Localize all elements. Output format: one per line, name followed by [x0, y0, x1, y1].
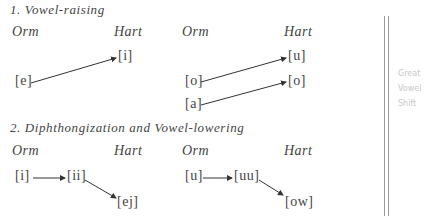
arrow-ii-to-ej — [85, 180, 116, 198]
note-line: Great — [398, 68, 421, 80]
arrow-e-to-i — [31, 58, 116, 83]
note-line: Shift — [398, 98, 421, 110]
sound-change-arrows — [0, 0, 435, 216]
margin-rule — [388, 16, 389, 216]
arrow-a-to-o — [201, 82, 286, 105]
arrow-uu-to-ow — [259, 180, 283, 195]
margin-rule — [384, 16, 385, 216]
handwritten-margin-note: Great Vowel Shift — [398, 68, 421, 110]
note-line: Vowel — [398, 83, 421, 95]
arrow-o-to-u — [201, 58, 286, 82]
